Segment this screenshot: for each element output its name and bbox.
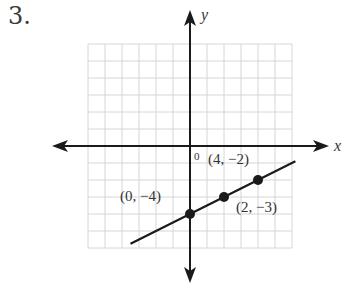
y-axis-label: y: [199, 6, 209, 24]
point-marker: [253, 175, 263, 185]
origin-label: 0: [194, 150, 200, 162]
point-label: (2, −3): [236, 199, 277, 216]
point-label: (4, −2): [208, 151, 249, 168]
axes: x y 0: [52, 6, 341, 283]
coordinate-plane: x y 0 (0, −4)(2, −3)(4, −2): [0, 0, 359, 297]
point-label: (0, −4): [120, 188, 161, 205]
point-marker: [185, 209, 195, 219]
point-marker: [219, 192, 229, 202]
x-axis-label: x: [333, 137, 341, 154]
